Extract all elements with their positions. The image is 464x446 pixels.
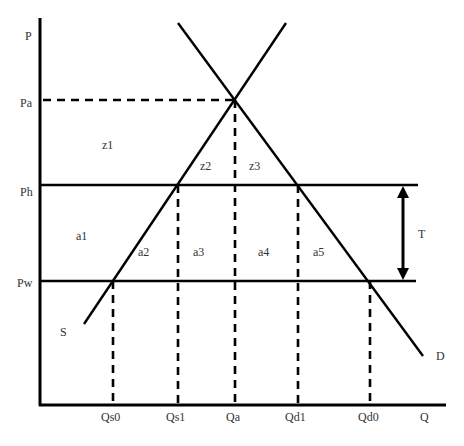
area-label-z1: z1 bbox=[102, 138, 113, 152]
supply-label: S bbox=[60, 325, 67, 339]
area-label-a2: a2 bbox=[138, 245, 149, 259]
area-label-a1: a1 bbox=[76, 229, 87, 243]
tariff-arrow bbox=[397, 186, 409, 280]
price-label-pa: Pa bbox=[20, 96, 33, 110]
price-label-pw: Pw bbox=[17, 276, 33, 290]
area-label-z3: z3 bbox=[249, 159, 260, 173]
price-label-ph: Ph bbox=[20, 185, 33, 199]
qty-label-qd0: Qd0 bbox=[358, 410, 379, 424]
area-label-a3: a3 bbox=[193, 245, 204, 259]
demand-curve bbox=[178, 23, 423, 356]
qty-label-qd1: Qd1 bbox=[285, 410, 306, 424]
tariff-diagram: P Q Pa Ph Pw Qs0 Qs1 Qa Qd1 Qd0 S D z1 z… bbox=[0, 0, 464, 446]
y-axis-label: P bbox=[25, 29, 32, 43]
x-axis-label: Q bbox=[420, 410, 429, 424]
area-label-a4: a4 bbox=[258, 245, 269, 259]
tariff-label: T bbox=[418, 227, 426, 241]
qty-label-qs1: Qs1 bbox=[166, 410, 185, 424]
arrow-down-icon bbox=[397, 268, 409, 280]
arrow-up-icon bbox=[397, 186, 409, 198]
qty-label-qa: Qa bbox=[226, 410, 241, 424]
qty-label-qs0: Qs0 bbox=[101, 410, 120, 424]
supply-curve bbox=[84, 23, 286, 324]
area-label-a5: a5 bbox=[313, 245, 324, 259]
demand-label: D bbox=[436, 349, 445, 363]
area-label-z2: z2 bbox=[200, 159, 211, 173]
